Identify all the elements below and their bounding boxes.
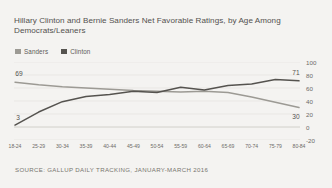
data-label-clinton-end: 71: [292, 68, 299, 75]
y-axis-tick: 60: [306, 85, 313, 92]
x-axis-tick: 75-79: [269, 143, 282, 149]
x-axis-tick: 60-64: [198, 143, 211, 149]
x-axis-tick: 30-34: [56, 143, 69, 149]
data-label-sanders-end: 30: [292, 112, 299, 119]
legend-item-sanders: Sanders: [15, 48, 48, 55]
x-axis-tick: 50-54: [151, 143, 164, 149]
x-axis-tick: 18-24: [9, 143, 22, 149]
data-label-sanders-start: 69: [15, 70, 22, 77]
plot-area: 6937130: [14, 62, 300, 140]
data-label-clinton-start: 3: [16, 114, 20, 121]
y-axis-tick: 100: [306, 59, 316, 66]
legend-swatch-clinton: [61, 49, 67, 55]
chart-legend: Sanders Clinton: [15, 48, 90, 55]
y-axis-labels: 100806040200-20: [302, 62, 330, 140]
x-axis-tick: 40-44: [103, 143, 116, 149]
y-axis-tick: 80: [306, 72, 313, 79]
x-axis-tick: 35-39: [80, 143, 93, 149]
legend-swatch-sanders: [15, 49, 21, 55]
x-axis-tick: 80-84: [293, 143, 306, 149]
y-axis-tick: 20: [306, 111, 313, 118]
x-axis-tick: 55-59: [174, 143, 187, 149]
legend-label-sanders: Sanders: [24, 48, 48, 55]
legend-item-clinton: Clinton: [61, 48, 90, 55]
x-axis-tick: 70-74: [245, 143, 258, 149]
x-axis-tick: 45-49: [127, 143, 140, 149]
y-axis-tick: 40: [306, 98, 313, 105]
chart-card: Hillary Clinton and Bernie Sanders Net F…: [0, 0, 332, 188]
chart-canvas: [14, 62, 300, 140]
x-axis-tick: 25-29: [32, 143, 45, 149]
x-axis-tick: 65-69: [222, 143, 235, 149]
y-axis-tick: 0: [306, 124, 309, 131]
legend-label-clinton: Clinton: [70, 48, 90, 55]
y-axis-tick: -20: [306, 137, 315, 144]
chart-title: Hillary Clinton and Bernie Sanders Net F…: [14, 16, 314, 37]
chart-source: SOURCE: GALLUP DAILY TRACKING, JANUARY-M…: [15, 166, 208, 173]
x-axis-labels: 18-2425-2930-3435-3940-4445-4950-5455-59…: [14, 143, 300, 155]
